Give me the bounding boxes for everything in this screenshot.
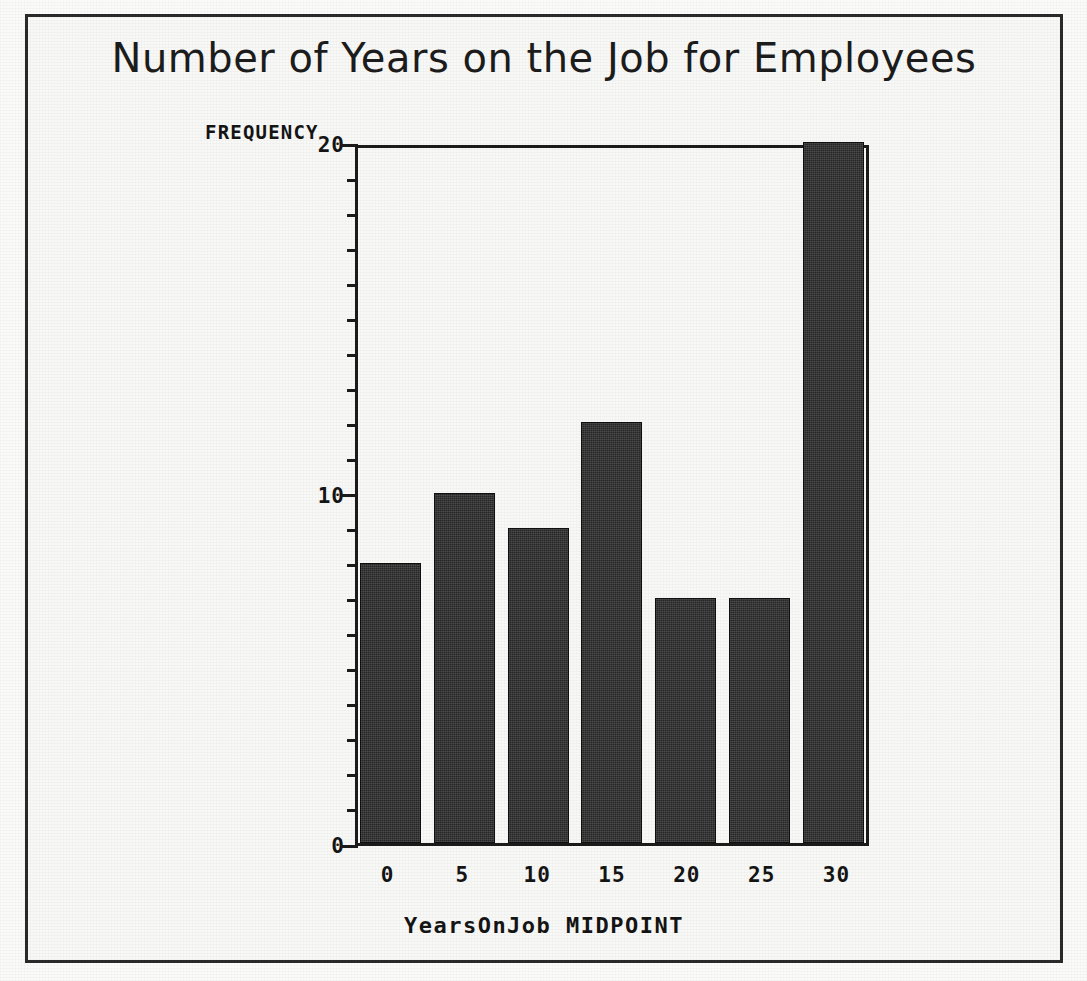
bar-25 (729, 598, 790, 843)
y-axis-title: FREQUENCY (205, 121, 319, 143)
bar-5 (434, 493, 495, 844)
x-axis-tick-labels: 051015202530 (355, 863, 869, 893)
y-axis-tick-labels: 01020 (283, 145, 345, 846)
x-tick-label-25: 25 (731, 863, 792, 893)
x-tick-label-5: 5 (432, 863, 493, 893)
x-tick-label-30: 30 (806, 863, 867, 893)
bar-10 (508, 528, 569, 843)
bar-20 (655, 598, 716, 843)
bar-series (358, 148, 866, 843)
bar-15 (581, 422, 642, 843)
chart-title: Number of Years on the Job for Employees (28, 35, 1060, 81)
x-tick-label-0: 0 (357, 863, 418, 893)
x-tick-label-15: 15 (581, 863, 642, 893)
figure-outer-frame: Number of Years on the Job for Employees… (25, 14, 1063, 963)
x-tick-label-10: 10 (507, 863, 568, 893)
x-tick-label-20: 20 (656, 863, 717, 893)
scanned-page-background: Number of Years on the Job for Employees… (0, 0, 1087, 981)
bar-30 (803, 142, 864, 843)
bar-0 (360, 563, 421, 843)
plot-area (355, 145, 869, 846)
x-axis-title: YearsOnJob MIDPOINT (28, 913, 1060, 938)
